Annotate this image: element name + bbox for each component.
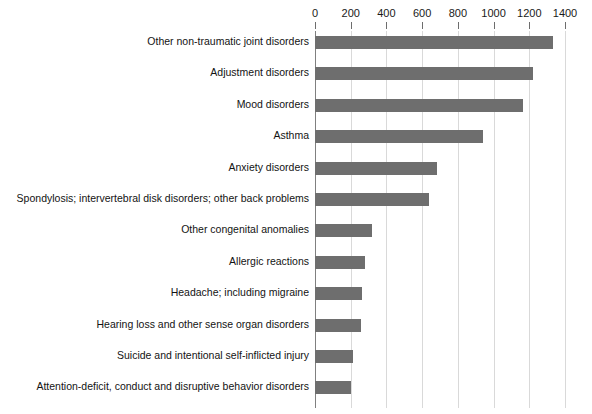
bar — [315, 224, 372, 237]
category-label: Headache; including migraine — [171, 286, 309, 299]
tick-mark-1200 — [529, 22, 530, 29]
category-label: Suicide and intentional self-inflicted i… — [117, 349, 309, 362]
gridline-600 — [422, 31, 423, 408]
x-tick-label: 400 — [377, 6, 395, 20]
x-tick-label: 1400 — [553, 6, 577, 20]
plot-area — [315, 31, 565, 408]
category-label: Hearing loss and other sense organ disor… — [97, 318, 309, 331]
y-axis-category-labels: Other non-traumatic joint disordersAdjus… — [0, 31, 309, 408]
x-tick-label: 200 — [342, 6, 360, 20]
bar — [315, 381, 351, 394]
bar — [315, 319, 361, 332]
bar — [315, 350, 353, 363]
tick-mark-0 — [315, 22, 316, 29]
category-label: Attention-deficit, conduct and disruptiv… — [36, 380, 309, 393]
x-tick-label: 1000 — [481, 6, 505, 20]
tick-mark-1000 — [494, 22, 495, 29]
x-tick-label: 0 — [312, 6, 318, 20]
x-tick-label: 800 — [449, 6, 467, 20]
category-label: Asthma — [273, 129, 309, 142]
tick-mark-600 — [422, 22, 423, 29]
bar — [315, 67, 533, 80]
gridline-1400 — [565, 31, 566, 408]
gridline-800 — [458, 31, 459, 408]
tick-mark-1400 — [565, 22, 566, 29]
gridline-1200 — [529, 31, 530, 408]
category-label: Mood disorders — [237, 98, 309, 111]
category-label: Adjustment disorders — [210, 66, 309, 79]
tick-mark-200 — [351, 22, 352, 29]
bar — [315, 99, 523, 112]
bar — [315, 36, 553, 49]
gridline-400 — [386, 31, 387, 408]
bar — [315, 130, 483, 143]
tick-mark-800 — [458, 22, 459, 29]
bar — [315, 256, 365, 269]
x-tick-label: 1200 — [517, 6, 541, 20]
category-label: Anxiety disorders — [228, 161, 309, 174]
category-label: Spondylosis; intervertebral disk disorde… — [17, 192, 309, 205]
bar — [315, 162, 437, 175]
x-tick-label: 600 — [413, 6, 431, 20]
bar — [315, 193, 429, 206]
horizontal-bar-chart: 0200400600800100012001400 Other non-trau… — [0, 0, 592, 414]
tick-mark-400 — [386, 22, 387, 29]
bar — [315, 287, 362, 300]
x-axis-tick-labels: 0200400600800100012001400 — [315, 6, 565, 20]
x-axis-tick-marks — [315, 22, 565, 31]
category-label: Other non-traumatic joint disorders — [147, 35, 309, 48]
category-label: Other congenital anomalies — [181, 223, 309, 236]
category-label: Allergic reactions — [229, 255, 309, 268]
gridline-1000 — [494, 31, 495, 408]
